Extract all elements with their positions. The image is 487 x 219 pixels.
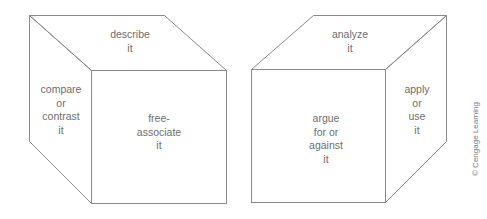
label-line: associate	[137, 126, 181, 140]
label-line: contrast	[41, 110, 82, 124]
label-line: it	[110, 42, 150, 56]
label-line: or	[404, 97, 429, 111]
label-line: argue	[309, 112, 343, 126]
label-line: it	[404, 124, 429, 138]
right-top-label: analyze it	[332, 28, 368, 55]
left-top-label: describe it	[110, 28, 150, 55]
label-line: analyze	[332, 28, 368, 42]
label-line: for or	[309, 126, 343, 140]
label-line: it	[137, 139, 181, 153]
copyright-credit: © Cengage Learning	[471, 102, 480, 176]
right-front-label: argue for or against it	[309, 112, 343, 166]
label-line: describe	[110, 28, 150, 42]
label-line: free-	[137, 112, 181, 126]
label-line: or	[41, 97, 82, 111]
label-line: it	[332, 42, 368, 56]
label-line: use	[404, 110, 429, 124]
left-front-label: free- associate it	[137, 112, 181, 153]
label-line: against	[309, 139, 343, 153]
right-side-label: apply or use it	[404, 83, 429, 137]
label-line: apply	[404, 83, 429, 97]
label-line: it	[41, 124, 82, 138]
label-line: it	[309, 153, 343, 167]
left-side-label: compare or contrast it	[41, 83, 82, 137]
label-line: compare	[41, 83, 82, 97]
